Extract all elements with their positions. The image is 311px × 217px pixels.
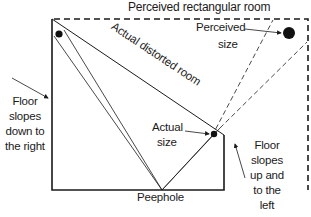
- perceived-size-arrow: [245, 29, 281, 33]
- actual-size-dot: [211, 131, 217, 137]
- floor-right-line-1: Floor: [247, 138, 287, 153]
- perceived-size-dot: [283, 27, 295, 39]
- left-corner-person-dot: [55, 30, 62, 37]
- floor-right-arrow: [235, 144, 245, 178]
- floor-right-line-2: slopes: [247, 153, 287, 168]
- perceived-size-label-2: size: [218, 37, 238, 52]
- actual-size-arrow: [185, 131, 209, 134]
- actual-size-label-2: size: [157, 135, 177, 150]
- floor-left-line-1: Floor: [4, 94, 46, 109]
- floor-left-line-3: down to: [4, 124, 46, 139]
- dashed-projection-2: [220, 42, 307, 128]
- floor-right-line-3: up and: [247, 168, 287, 183]
- floor-left-line-4: the right: [4, 139, 46, 154]
- perceived-room-title: Perceived rectangular room: [128, 0, 270, 15]
- peephole-label: Peephole: [137, 190, 184, 205]
- sight-line-left-1: [54, 36, 162, 190]
- perceived-size-label-1: Perceived: [196, 20, 245, 35]
- floor-right-line-5: left: [247, 198, 287, 213]
- floor-right-text: Floor slopes up and to the left: [247, 138, 287, 213]
- floor-left-line-2: slopes: [4, 109, 46, 124]
- floor-left-text: Floor slopes down to the right: [4, 94, 46, 154]
- actual-size-label-1: Actual: [152, 120, 183, 135]
- floor-right-line-4: to the: [247, 183, 287, 198]
